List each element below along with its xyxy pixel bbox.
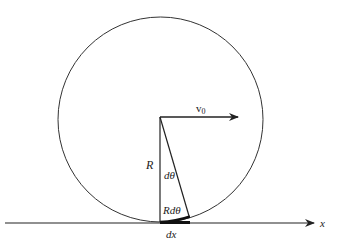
x-axis-label: x xyxy=(319,217,325,229)
angle-label: dθ xyxy=(164,169,176,181)
arc-label: Rdθ xyxy=(162,204,181,216)
slant-line xyxy=(160,117,189,216)
dx-label: dx xyxy=(166,228,177,240)
radius-label: R xyxy=(145,158,154,172)
velocity-label: v0 xyxy=(196,102,206,116)
rolling-wheel-diagram: x v0 R dθ Rdθ dx xyxy=(0,0,342,247)
